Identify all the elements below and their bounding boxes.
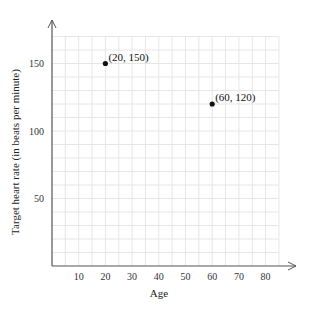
x-tick-label: 40: [154, 271, 164, 282]
chart: 1020304050607080 50100150 (20, 150)(60, …: [0, 0, 312, 311]
grid: [52, 37, 279, 267]
point-label: (60, 120): [215, 91, 256, 104]
data-point: [103, 61, 108, 66]
x-tick-label: 20: [100, 271, 110, 282]
data-point: [210, 101, 215, 106]
y-axis-label: Target heart rate (in beats per minute): [9, 69, 22, 235]
x-tick-label: 80: [261, 271, 271, 282]
x-tick-label: 10: [74, 271, 84, 282]
x-tick-label: 60: [207, 271, 217, 282]
x-tick-labels: 1020304050607080: [74, 271, 271, 282]
y-tick-labels: 50100150: [29, 58, 44, 204]
x-tick-label: 30: [127, 271, 137, 282]
x-tick-label: 50: [181, 271, 191, 282]
y-tick-label: 50: [34, 193, 44, 204]
x-tick-label: 70: [234, 271, 244, 282]
point-label: (20, 150): [108, 51, 149, 64]
y-tick-label: 100: [29, 126, 44, 137]
y-tick-label: 150: [29, 58, 44, 69]
data-points: (20, 150)(60, 120): [103, 51, 256, 107]
x-axis-label: Age: [150, 287, 168, 299]
